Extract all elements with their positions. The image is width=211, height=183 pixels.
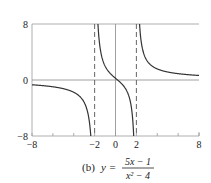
figure-caption: (b) y = 5x − 1 x² − 4	[0, 155, 211, 183]
curve-branch	[32, 85, 91, 143]
caption-lhs: y =	[100, 161, 116, 173]
curve-branch	[139, 17, 199, 75]
x-tick-label: −8	[27, 139, 38, 150]
x-tick-label: 8	[197, 139, 202, 150]
caption-denominator: x² − 4	[125, 170, 150, 181]
x-tick-label: 0	[113, 139, 118, 150]
y-tick-label: 0	[23, 75, 28, 86]
caption-numerator: 5x − 1	[125, 156, 151, 167]
axes	[32, 24, 199, 136]
x-tick-label: −2	[89, 139, 100, 150]
plot: −8−202880−8	[0, 0, 211, 155]
x-tick-label: 2	[134, 139, 139, 150]
caption-label: (b)	[82, 161, 95, 174]
y-tick-label: 8	[23, 19, 28, 30]
tick-labels: −8−202880−8	[17, 19, 201, 151]
y-tick-label: −8	[17, 131, 28, 142]
ticks	[32, 133, 199, 136]
